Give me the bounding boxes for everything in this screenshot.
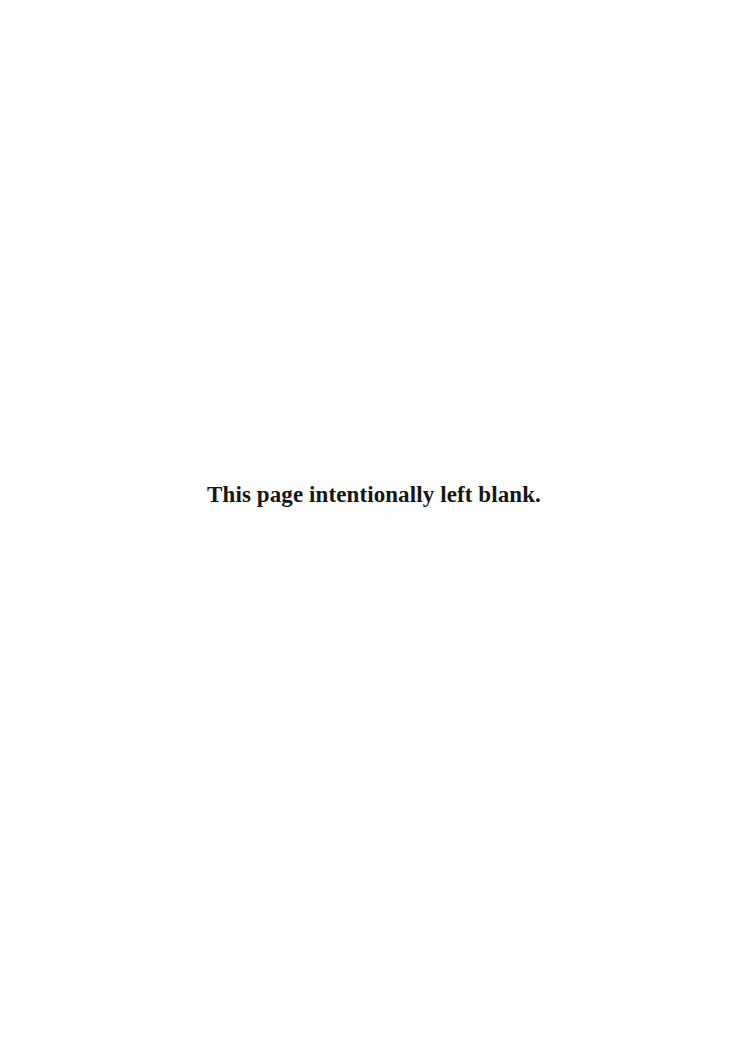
blank-page-notice: This page intentionally left blank. [0, 481, 748, 509]
document-page: This page intentionally left blank. [0, 0, 748, 1055]
